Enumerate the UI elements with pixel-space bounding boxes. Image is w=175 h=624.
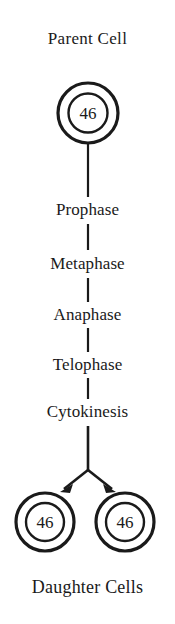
daughter-cell-1-chromosome-count: 46 bbox=[25, 514, 65, 531]
daughter-cell-2-chromosome-count: 46 bbox=[105, 514, 145, 531]
split-arrows bbox=[60, 470, 116, 493]
phase-label-telophase: Telophase bbox=[0, 356, 175, 373]
arrow-right-head-icon bbox=[103, 484, 116, 493]
arrow-left-shaft bbox=[64, 470, 88, 489]
arrow-right-shaft bbox=[88, 470, 112, 489]
phase-label-cytokinesis: Cytokinesis bbox=[0, 403, 175, 420]
mitosis-diagram: Parent Cell bbox=[0, 0, 175, 624]
phase-label-anaphase: Anaphase bbox=[0, 306, 175, 323]
phase-label-prophase: Prophase bbox=[0, 201, 175, 218]
page-title: Parent Cell bbox=[0, 30, 175, 47]
arrow-left-head-icon bbox=[60, 484, 73, 493]
phase-label-metaphase: Metaphase bbox=[0, 255, 175, 272]
parent-cell-chromosome-count: 46 bbox=[68, 105, 108, 122]
footer-label: Daughter Cells bbox=[0, 578, 175, 596]
